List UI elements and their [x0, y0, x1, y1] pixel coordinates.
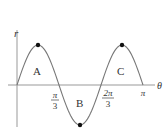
region-label-a: A — [33, 65, 41, 77]
polar-graph-plot: r θ A B C π 3 2π 3 π — [0, 0, 168, 131]
svg-text:π: π — [53, 90, 58, 100]
r-axis-label: r — [14, 27, 19, 39]
tick-label-pi: π — [141, 88, 146, 98]
region-label-c: C — [117, 65, 124, 77]
svg-text:2π: 2π — [103, 88, 113, 98]
region-label-b: B — [76, 97, 83, 109]
svg-text:3: 3 — [106, 99, 111, 109]
theta-axis-label: θ — [157, 80, 162, 91]
tick-label-pi-over-3: π 3 — [51, 90, 59, 111]
extremum-point-0 — [36, 43, 40, 47]
tick-label-2pi-over-3: 2π 3 — [102, 88, 114, 109]
extremum-point-1 — [78, 123, 82, 127]
extremum-point-2 — [120, 43, 124, 47]
svg-text:3: 3 — [53, 101, 58, 111]
